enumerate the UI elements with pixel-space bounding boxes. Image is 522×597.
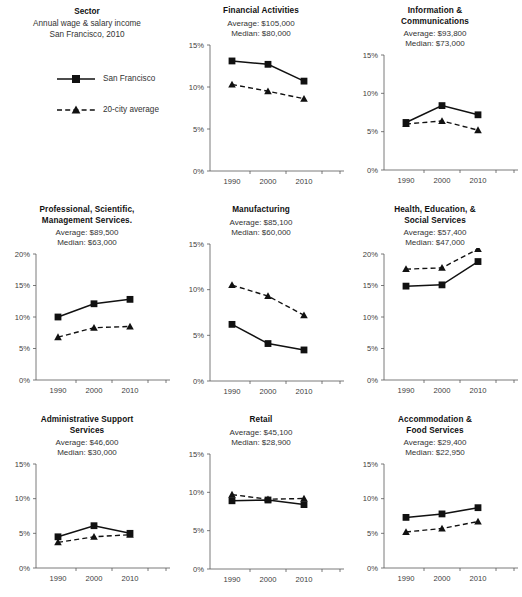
chart-average-label: Average: $105,000 bbox=[174, 19, 348, 29]
panel-legend: Sector Annual wage & salary income San F… bbox=[0, 0, 174, 199]
chart-plot-area: 0%5%10%15%199020002010 bbox=[348, 458, 522, 590]
data-point-20-city-average bbox=[474, 248, 482, 252]
y-tick-label: 15% bbox=[15, 460, 30, 469]
chart-plot-area: 0%5%10%15%20%199020002010 bbox=[348, 248, 522, 402]
chart-average-label: Average: $29,400 bbox=[348, 438, 522, 448]
chart-title-line: Administrative Support bbox=[0, 415, 174, 426]
x-tick-label: 2010 bbox=[470, 386, 487, 395]
small-multiples-grid: Sector Annual wage & salary income San F… bbox=[0, 0, 522, 597]
y-tick-label: 0% bbox=[193, 377, 204, 386]
y-tick-label: 15% bbox=[363, 282, 378, 291]
x-tick-label: 2000 bbox=[86, 574, 103, 583]
x-tick-label: 2000 bbox=[86, 386, 103, 395]
chart-stats: Average: $45,100Median: $28,900 bbox=[174, 428, 348, 448]
panel-administrative-support-services: Administrative SupportServicesAverage: $… bbox=[0, 409, 174, 597]
y-tick-label: 5% bbox=[193, 125, 204, 134]
data-point-san-francisco bbox=[265, 340, 272, 347]
chart-title-line: Information & bbox=[348, 6, 522, 17]
y-tick-label: 5% bbox=[193, 331, 204, 340]
y-tick-label: 5% bbox=[367, 345, 378, 354]
data-point-san-francisco bbox=[439, 103, 446, 110]
data-point-san-francisco bbox=[301, 346, 308, 353]
chart-average-label: Average: $57,400 bbox=[348, 228, 522, 238]
data-point-20-city-average bbox=[300, 95, 308, 102]
y-tick-label: 10% bbox=[363, 495, 378, 504]
x-tick-label: 2000 bbox=[260, 177, 277, 186]
y-tick-label: 10% bbox=[363, 90, 378, 99]
x-tick-label: 2010 bbox=[296, 387, 313, 396]
y-tick-label: 0% bbox=[193, 167, 204, 176]
legend-entries: San Francisco 20-city average bbox=[0, 63, 174, 125]
panel-retail: RetailAverage: $45,100Median: $28,9000%5… bbox=[174, 409, 348, 597]
chart-plot-area: 0%5%10%15%199020002010 bbox=[174, 238, 348, 403]
chart-stats: Average: $89,500Median: $63,000 bbox=[0, 228, 174, 248]
chart-median-label: Median: $80,000 bbox=[174, 29, 348, 39]
chart-plot: 0%5%10%15%199020002010 bbox=[174, 448, 348, 591]
x-tick-label: 1990 bbox=[224, 177, 241, 186]
chart-plot-area: 0%5%10%15%20%199020002010 bbox=[0, 248, 174, 402]
panel-manufacturing: ManufacturingAverage: $85,100Median: $60… bbox=[174, 199, 348, 409]
legend-swatch-solid-square-icon bbox=[55, 73, 97, 85]
data-point-san-francisco bbox=[475, 505, 482, 512]
data-point-san-francisco bbox=[301, 78, 308, 85]
chart-header: Health, Education, &Social ServicesAvera… bbox=[348, 199, 522, 248]
chart-title: Financial Activities bbox=[174, 6, 348, 17]
data-point-san-francisco bbox=[265, 497, 272, 504]
chart-header: Accommodation &Food ServicesAverage: $29… bbox=[348, 409, 522, 458]
data-point-san-francisco bbox=[55, 534, 62, 541]
chart-stats: Average: $57,400Median: $47,000 bbox=[348, 228, 522, 248]
chart-median-label: Median: $22,950 bbox=[348, 448, 522, 458]
x-tick-label: 2010 bbox=[470, 574, 487, 583]
chart-average-label: Average: $45,100 bbox=[174, 428, 348, 438]
y-tick-label: 5% bbox=[367, 530, 378, 539]
legend-label-san-francisco: San Francisco bbox=[103, 74, 155, 83]
y-tick-label: 5% bbox=[19, 530, 30, 539]
chart-plot-area: 0%5%10%15%199020002010 bbox=[174, 39, 348, 193]
panel-health-education-social-services: Health, Education, &Social ServicesAvera… bbox=[348, 199, 522, 409]
panel-accommodation-food-services: Accommodation &Food ServicesAverage: $29… bbox=[348, 409, 522, 597]
chart-plot: 0%5%10%15%20%199020002010 bbox=[348, 248, 522, 402]
chart-title: Professional, Scientific,Management Serv… bbox=[0, 205, 174, 226]
chart-median-label: Median: $60,000 bbox=[174, 228, 348, 238]
y-tick-label: 0% bbox=[19, 376, 30, 385]
chart-average-label: Average: $93,800 bbox=[348, 29, 522, 39]
y-tick-label: 0% bbox=[367, 166, 378, 175]
chart-average-label: Average: $46,600 bbox=[0, 438, 174, 448]
chart-plot: 0%5%10%15%199020002010 bbox=[174, 39, 348, 193]
data-point-20-city-average bbox=[90, 533, 98, 540]
chart-title-line: Food Services bbox=[348, 426, 522, 437]
y-tick-label: 15% bbox=[15, 282, 30, 291]
y-tick-label: 0% bbox=[193, 565, 204, 574]
data-point-20-city-average bbox=[228, 491, 236, 498]
chart-header: Administrative SupportServicesAverage: $… bbox=[0, 409, 174, 458]
y-tick-label: 5% bbox=[367, 128, 378, 137]
legend-subtitle-line1: Annual wage & salary income bbox=[0, 19, 174, 30]
panel-financial-activities: Financial ActivitiesAverage: $105,000Med… bbox=[174, 0, 348, 199]
data-point-20-city-average bbox=[474, 127, 482, 134]
chart-title-line: Communications bbox=[348, 17, 522, 28]
chart-title-line: Retail bbox=[174, 415, 348, 426]
chart-plot: 0%5%10%15%199020002010 bbox=[174, 238, 348, 403]
panel-professional-scientific-management-services: Professional, Scientific,Management Serv… bbox=[0, 199, 174, 409]
y-tick-label: 10% bbox=[363, 313, 378, 322]
chart-title-line: Services bbox=[0, 426, 174, 437]
legend-header: Sector Annual wage & salary income San F… bbox=[0, 0, 174, 40]
y-tick-label: 0% bbox=[19, 564, 30, 573]
data-point-san-francisco bbox=[403, 119, 410, 126]
data-point-san-francisco bbox=[475, 112, 482, 119]
chart-plot: 0%5%10%15%199020002010 bbox=[348, 49, 522, 192]
y-tick-label: 15% bbox=[189, 41, 204, 50]
x-tick-label: 1990 bbox=[398, 386, 415, 395]
x-tick-label: 1990 bbox=[50, 386, 67, 395]
y-tick-label: 15% bbox=[189, 240, 204, 249]
chart-title: Manufacturing bbox=[174, 205, 348, 216]
y-tick-label: 0% bbox=[367, 376, 378, 385]
data-point-san-francisco bbox=[91, 523, 98, 530]
x-tick-label: 1990 bbox=[50, 574, 67, 583]
chart-title: Information &Communications bbox=[348, 6, 522, 27]
y-tick-label: 0% bbox=[367, 564, 378, 573]
chart-plot-area: 0%5%10%15%199020002010 bbox=[0, 458, 174, 590]
x-tick-label: 2000 bbox=[260, 575, 277, 584]
data-point-san-francisco bbox=[127, 296, 134, 303]
chart-header: ManufacturingAverage: $85,100Median: $60… bbox=[174, 199, 348, 238]
